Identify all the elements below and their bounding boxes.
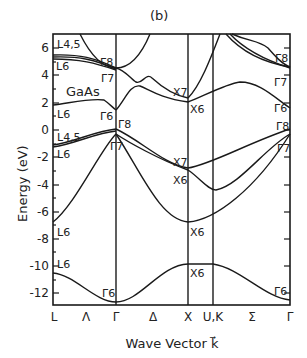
plot-frame bbox=[53, 34, 290, 305]
svg-text:Γ: Γ bbox=[287, 310, 294, 324]
svg-text:Γ6: Γ6 bbox=[102, 287, 115, 300]
svg-text:L6: L6 bbox=[57, 148, 70, 161]
svg-text:X7: X7 bbox=[173, 156, 188, 169]
svg-text:-12: -12 bbox=[29, 286, 49, 300]
svg-text:Λ: Λ bbox=[82, 310, 91, 324]
svg-text:L6: L6 bbox=[57, 258, 70, 271]
svg-text:4: 4 bbox=[41, 68, 49, 82]
x-axis-label: Wave Vector k⃗ bbox=[126, 336, 219, 351]
svg-text:Δ: Δ bbox=[149, 310, 158, 324]
svg-text:L6: L6 bbox=[57, 226, 70, 239]
svg-text:Γ7: Γ7 bbox=[110, 140, 123, 153]
material-label: GaAs bbox=[66, 84, 100, 99]
right-gamma-annotations: Γ8 Γ7 Γ6 Γ8 Γ7 Γ6 bbox=[274, 52, 290, 298]
figure-title: (b) bbox=[150, 8, 168, 23]
svg-text:X7: X7 bbox=[173, 86, 188, 99]
svg-text:X: X bbox=[184, 310, 192, 324]
svg-text:L6: L6 bbox=[56, 60, 69, 73]
svg-text:Γ: Γ bbox=[113, 310, 120, 324]
band-structure-figure: (b) 6 bbox=[0, 0, 307, 358]
svg-text:L4,5: L4,5 bbox=[57, 38, 81, 51]
band-curves bbox=[53, 34, 290, 302]
svg-text:-8: -8 bbox=[37, 232, 49, 246]
svg-text:Γ7: Γ7 bbox=[277, 142, 290, 155]
svg-text:L: L bbox=[51, 310, 58, 324]
svg-text:6: 6 bbox=[41, 41, 49, 55]
svg-text:2: 2 bbox=[41, 96, 49, 110]
svg-text:L4,5: L4,5 bbox=[57, 131, 81, 144]
svg-text:Γ8: Γ8 bbox=[276, 120, 289, 133]
svg-text:Γ6: Γ6 bbox=[100, 110, 113, 123]
svg-text:-6: -6 bbox=[37, 205, 49, 219]
svg-text:L6: L6 bbox=[57, 108, 70, 121]
svg-text:-4: -4 bbox=[37, 178, 49, 192]
svg-text:0: 0 bbox=[41, 123, 49, 137]
svg-text:X6: X6 bbox=[190, 226, 205, 239]
svg-text:Γ6: Γ6 bbox=[274, 102, 287, 115]
svg-text:Γ7: Γ7 bbox=[274, 76, 287, 89]
x-tick-labels: L Λ Γ Δ X U,K Σ Γ bbox=[51, 310, 294, 324]
svg-text:X6: X6 bbox=[173, 174, 188, 187]
svg-text:Γ8: Γ8 bbox=[100, 56, 113, 69]
svg-text:-10: -10 bbox=[29, 259, 49, 273]
svg-text:X6: X6 bbox=[190, 267, 205, 280]
svg-text:Γ8: Γ8 bbox=[275, 52, 288, 65]
band-structure-chart: (b) 6 bbox=[0, 0, 307, 358]
svg-text:-2: -2 bbox=[37, 150, 49, 164]
y-tick-labels: 6 4 2 0 -2 -4 -6 -8 -10 -12 bbox=[29, 41, 49, 300]
y-axis-label: Energy (eV) bbox=[15, 145, 30, 222]
svg-text:X6: X6 bbox=[190, 103, 205, 116]
svg-text:Σ: Σ bbox=[248, 310, 256, 324]
svg-text:Γ7: Γ7 bbox=[101, 72, 114, 85]
svg-text:U,K: U,K bbox=[203, 310, 225, 324]
svg-text:Γ8: Γ8 bbox=[118, 118, 131, 131]
svg-text:Γ6: Γ6 bbox=[274, 285, 287, 298]
y-axis-ticks bbox=[53, 48, 59, 293]
